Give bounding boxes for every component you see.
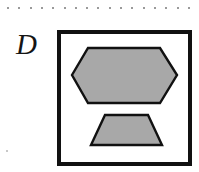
perforation-dot	[143, 7, 145, 9]
page-title: D	[16, 27, 48, 61]
perforation-dot	[64, 7, 66, 9]
perforation-dot	[41, 7, 43, 9]
perforation-dot	[131, 7, 133, 9]
perforation-dot	[188, 7, 190, 9]
dotted-scan-edge	[0, 0, 199, 16]
perforation-dot	[165, 7, 167, 9]
perforation-dot	[75, 7, 77, 9]
gray-hexagon	[72, 48, 177, 103]
perforation-dot	[109, 7, 111, 9]
perforation-dot	[30, 7, 32, 9]
perforation-dot	[18, 7, 20, 9]
perforation-dot	[120, 7, 122, 9]
perforation-dot	[177, 7, 179, 9]
scan-artifact-dot	[6, 150, 8, 152]
perforation-dot	[97, 7, 99, 9]
perforation-dot	[86, 7, 88, 9]
gray-trapezoid	[91, 115, 162, 145]
perforation-dot	[7, 7, 9, 9]
perforation-dot	[154, 7, 156, 9]
perforation-dot	[52, 7, 54, 9]
shape-layer	[57, 30, 192, 166]
figure-panel-d: D	[0, 0, 199, 172]
